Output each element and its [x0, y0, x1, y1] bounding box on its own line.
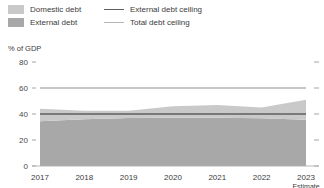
x-tick-label-2018: 2018 [75, 173, 93, 182]
legend-item-external-debt-ceiling[interactable]: External debt ceiling [104, 5, 248, 14]
legend-label-total-debt-ceiling: Total debt ceiling [130, 18, 190, 27]
x-tick-label-2022: 2022 [253, 173, 271, 182]
x-tick-label-2020: 2020 [164, 173, 182, 182]
chart-legend: Domestic debt External debt ceiling Exte… [8, 3, 248, 29]
legend-item-external-debt[interactable]: External debt [8, 18, 94, 27]
x-tick-labels: 2017201820192020202120222023 [31, 173, 315, 182]
x-tick-label-2021: 2021 [208, 173, 226, 182]
y-tick-label-20: 20 [19, 136, 28, 145]
y-tick-marks-right [314, 62, 319, 166]
y-tick-label-40: 40 [19, 110, 28, 119]
chart-figure: Domestic debt External debt ceiling Exte… [0, 0, 324, 188]
legend-line-total-debt-ceiling [104, 22, 124, 23]
x-tick-label-2023: 2023 [297, 173, 315, 182]
y-tick-label-80: 80 [19, 58, 28, 67]
x-axis-note: Estimate [292, 183, 319, 188]
area-external-debt [40, 118, 306, 166]
y-tick-labels: 020406080 [19, 58, 28, 171]
y-tick-marks-left [32, 62, 36, 166]
y-tick-label-60: 60 [19, 84, 28, 93]
chart-svg: 020406080 2017201820192020202120222023 E… [0, 52, 324, 188]
x-axis-estimate-note: Estimate [292, 183, 319, 188]
y-tick-label-0: 0 [24, 162, 29, 171]
plot-area: 020406080 2017201820192020202120222023 E… [0, 52, 324, 188]
legend-label-external-debt-ceiling: External debt ceiling [130, 5, 202, 14]
legend-swatch-external-debt [8, 18, 24, 27]
x-tick-label-2017: 2017 [31, 173, 49, 182]
legend-item-domestic-debt[interactable]: Domestic debt [8, 5, 94, 14]
x-tick-label-2019: 2019 [120, 173, 138, 182]
legend-item-total-debt-ceiling[interactable]: Total debt ceiling [104, 18, 248, 27]
legend-label-domestic-debt: Domestic debt [30, 5, 81, 14]
legend-label-external-debt: External debt [30, 18, 77, 27]
series-area-external-debt [40, 118, 306, 166]
legend-swatch-domestic-debt [8, 5, 24, 14]
legend-line-external-debt-ceiling [104, 9, 124, 10]
